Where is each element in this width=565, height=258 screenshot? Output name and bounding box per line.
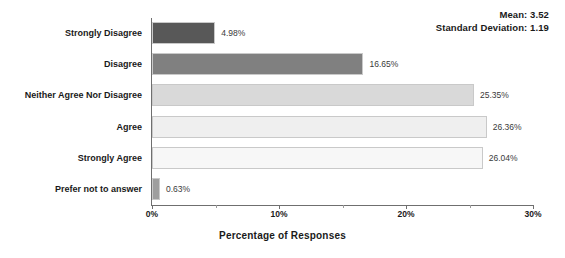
category-label: Neither Agree Nor Disagree: [0, 80, 148, 111]
x-axis-tick-label: 0%: [146, 209, 158, 219]
category-label: Disagree: [0, 49, 148, 80]
category-label: Agree: [0, 112, 148, 143]
x-axis-minor-tick: [343, 205, 344, 208]
bar: [152, 178, 160, 200]
x-axis-tick-label: 10%: [270, 209, 287, 219]
x-axis-minor-tick: [470, 205, 471, 208]
bar-value-label: 25.35%: [474, 84, 509, 106]
x-axis-tick-label: 20%: [397, 209, 414, 219]
category-label: Strongly Agree: [0, 143, 148, 174]
bar-value-label: 26.36%: [487, 116, 522, 138]
x-axis-title: Percentage of Responses: [0, 230, 565, 241]
category-label: Strongly Disagree: [0, 18, 148, 49]
bar-value-label: 26.04%: [483, 147, 518, 169]
bar-row: 26.36%: [152, 112, 533, 143]
bar-value-label: 0.63%: [160, 178, 190, 200]
bar-row: 4.98%: [152, 18, 533, 49]
bar-row: 0.63%: [152, 174, 533, 205]
bar-chart: Mean: 3.52 Standard Deviation: 1.19 Stro…: [0, 0, 565, 258]
bar-row: 26.04%: [152, 143, 533, 174]
category-label: Prefer not to answer: [0, 174, 148, 205]
bar-value-label: 4.98%: [215, 22, 245, 44]
bar: [152, 53, 363, 75]
plot-area: 4.98%16.65%25.35%26.36%26.04%0.63%: [152, 18, 533, 205]
bar: [152, 84, 474, 106]
bar-value-label: 16.65%: [363, 53, 398, 75]
bar: [152, 116, 487, 138]
bar: [152, 22, 215, 44]
bar: [152, 147, 483, 169]
x-axis-minor-tick: [216, 205, 217, 208]
bar-row: 16.65%: [152, 49, 533, 80]
bar-row: 25.35%: [152, 80, 533, 111]
category-axis-labels: Strongly DisagreeDisagreeNeither Agree N…: [0, 18, 148, 205]
x-axis-tick-label: 30%: [524, 209, 541, 219]
